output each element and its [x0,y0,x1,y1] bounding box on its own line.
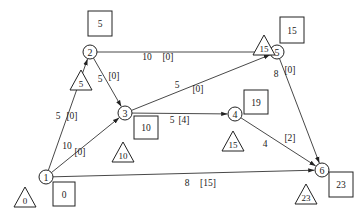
edge-1-6 [53,170,315,177]
node-label: 6 [320,165,325,176]
edge-slack-label: [0] [284,65,295,75]
late-time-box: 15 [280,17,304,43]
edge-slack-label: [15] [200,178,216,188]
edge-3-4 [132,113,228,114]
edge-duration-label: 10 [142,52,152,62]
early-time-value: 15 [229,140,239,150]
edge-slack-label: [0] [162,52,173,62]
late-time-box: 10 [134,116,158,139]
edge-duration-label: 8 [185,178,190,188]
early-time-triangle: 0 [14,187,36,207]
early-time-triangle: 15 [222,131,244,151]
early-time-value: 5 [79,79,84,89]
late-time-box: 0 [53,182,75,206]
late-time-value: 23 [336,180,346,190]
late-time-value: 15 [287,26,297,36]
node-label: 3 [123,108,128,119]
early-time-triangle: 23 [295,184,317,204]
edge-duration-label: 4 [263,139,268,149]
node-2: 2 [83,45,97,59]
early-time-value: 0 [23,196,28,206]
node-label: 2 [88,47,93,58]
edge-slack-label: [4] [178,115,189,125]
late-time-value: 0 [62,190,67,200]
node-1: 1 [39,170,53,184]
early-time-triangle: 5 [70,70,92,90]
node-6: 6 [315,163,329,177]
node-label: 5 [275,47,280,58]
edge-slack-label: [0] [192,84,203,94]
node-3: 3 [118,106,132,120]
early-time-triangle: 15 [253,35,275,55]
edge-duration-label: 5 [56,111,61,121]
edge-duration-label: 5 [175,80,180,90]
edge-duration-label: 10 [62,141,72,151]
network-diagram: 5[0]10[0]8[15]10[0]5[0]5[0]5[4]4[2]8[0] … [0,0,363,215]
late-time-value: 19 [251,98,261,108]
edge-slack-label: [0] [74,147,85,157]
late-time-box: 19 [244,90,268,114]
late-time-box: 5 [88,11,112,36]
edge-slack-label: [0] [66,111,77,121]
edge-slack-label: [0] [108,71,119,81]
edge-duration-label: 8 [274,69,279,79]
late-time-box: 23 [329,172,353,197]
node-label: 1 [44,172,49,183]
early-time-triangle: 10 [112,142,134,162]
edge-duration-label: 5 [98,74,103,84]
node-4: 4 [228,107,242,121]
late-time-value: 5 [98,19,103,29]
late-time-value: 10 [141,123,151,133]
edge-duration-label: 5 [170,115,175,125]
edge-slack-label: [2] [284,133,295,143]
early-time-value: 15 [260,44,270,54]
early-time-value: 10 [119,151,129,161]
node-label: 4 [233,109,238,120]
early-time-value: 23 [302,193,312,203]
